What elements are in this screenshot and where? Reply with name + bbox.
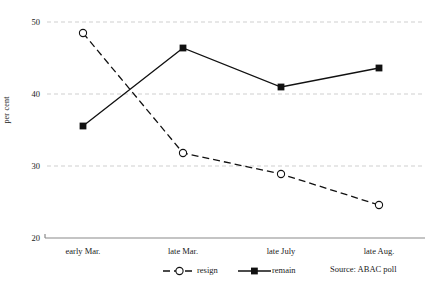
legend-label-resign: resign — [197, 265, 218, 275]
source-note: Source: ABAC poll — [330, 264, 397, 274]
axes — [45, 234, 425, 238]
resign-point-early-mar — [79, 29, 86, 36]
y-tick-40: 40 — [14, 89, 40, 99]
remain-point-late-aug — [376, 65, 383, 72]
x-tick-late-mar: late Mar. — [143, 246, 223, 256]
y-axis-title: per cent — [2, 80, 11, 140]
chart-container: per cent 50 40 30 20 early Mar. late Mar… — [0, 0, 442, 289]
resign-line — [83, 33, 379, 205]
x-tick-late-july: late July — [241, 246, 321, 256]
y-tick-50: 50 — [14, 17, 40, 27]
series-remain — [80, 45, 383, 130]
resign-point-late-aug — [375, 201, 382, 208]
y-tick-30: 30 — [14, 161, 40, 171]
x-tick-late-aug: late Aug. — [339, 246, 419, 256]
x-tick-early-mar: early Mar. — [43, 246, 123, 256]
y-tick-20: 20 — [14, 233, 40, 243]
remain-point-late-july — [278, 84, 285, 91]
resign-point-late-july — [277, 170, 284, 177]
legend-resign-open-circle-icon — [176, 267, 183, 274]
series-resign — [79, 29, 382, 208]
remain-point-late-mar — [180, 45, 187, 52]
legend-remain-filled-square-icon — [251, 268, 258, 275]
resign-point-late-mar — [179, 149, 186, 156]
legend-label-remain: remain — [272, 265, 296, 275]
remain-point-early-mar — [80, 123, 87, 130]
gridlines — [47, 22, 425, 166]
